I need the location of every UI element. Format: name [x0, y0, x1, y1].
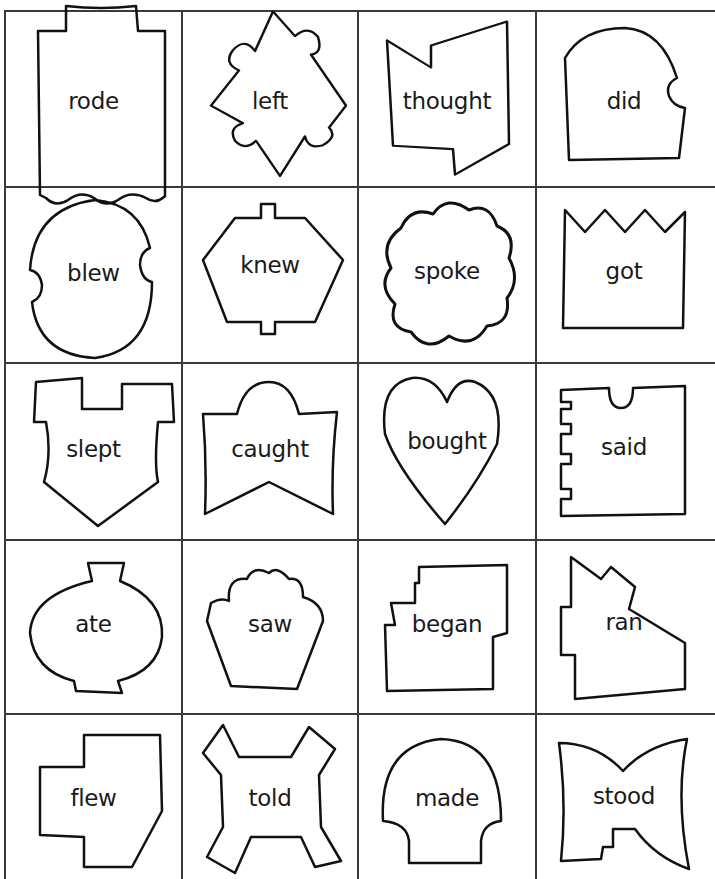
word-card-knew: knew: [183, 188, 357, 362]
word-label: knew: [183, 252, 357, 278]
word-label: bought: [359, 428, 535, 454]
word-label: stood: [537, 783, 711, 809]
word-label: ate: [6, 611, 181, 637]
word-label: slept: [6, 436, 181, 462]
word-label: told: [183, 785, 357, 811]
word-card-thought: thought: [359, 12, 535, 186]
word-card-caught: caught: [183, 364, 357, 539]
word-card-began: began: [359, 541, 535, 713]
word-card-said: said: [537, 364, 711, 539]
word-card-saw: saw: [183, 541, 357, 713]
word-card-bought: bought: [359, 364, 535, 539]
word-label: flew: [6, 785, 181, 811]
word-card-told: told: [183, 715, 357, 879]
word-card-ate: ate: [6, 541, 181, 713]
word-card-got: got: [537, 188, 711, 362]
word-label: left: [183, 88, 357, 114]
word-label: saw: [183, 611, 357, 637]
word-label: said: [537, 434, 711, 460]
word-card-spoke: spoke: [359, 188, 535, 362]
word-label: made: [359, 785, 535, 811]
word-label: did: [537, 88, 711, 114]
word-card-slept: slept: [6, 364, 181, 539]
word-label: began: [359, 611, 535, 637]
word-card-stood: stood: [537, 715, 711, 879]
word-label: ran: [537, 609, 711, 635]
word-card-flew: flew: [6, 715, 181, 879]
word-card-ran: ran: [537, 541, 711, 713]
word-label: thought: [359, 88, 535, 114]
word-label: spoke: [359, 258, 535, 284]
word-card-did: did: [537, 12, 711, 186]
word-label: caught: [183, 436, 357, 462]
word-label: blew: [6, 260, 181, 286]
word-card-rode: rode: [6, 12, 181, 186]
word-card-left: left: [183, 12, 357, 186]
word-label: got: [537, 258, 711, 284]
word-card-blew: blew: [6, 188, 181, 362]
word-card-made: made: [359, 715, 535, 879]
word-label: rode: [6, 88, 181, 114]
